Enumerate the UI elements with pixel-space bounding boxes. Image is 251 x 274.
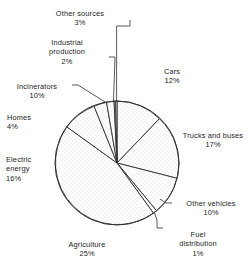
- label-fuel-distribution-name-line1: Fuel: [165, 230, 231, 239]
- label-electric-energy-name-line1: Electric: [6, 155, 54, 164]
- label-industrial-production-name-line1: Industrial: [28, 38, 106, 47]
- label-industrial-production-name-line2: production: [28, 47, 106, 56]
- label-homes: Homes 4%: [7, 113, 55, 132]
- label-other-sources: Other sources 3%: [34, 9, 126, 28]
- label-incinerators: Incinerators 10%: [4, 82, 70, 101]
- label-other-sources-name: Other sources: [34, 9, 126, 18]
- label-electric-energy: Electric energy 16%: [6, 155, 54, 183]
- label-agriculture-percent: 25%: [48, 249, 126, 258]
- label-incinerators-name: Incinerators: [4, 82, 70, 91]
- label-other-vehicles-name: Other vehicles: [175, 199, 247, 208]
- label-incinerators-percent: 10%: [4, 91, 70, 100]
- label-trucks-and-buses-name: Trucks and buses: [176, 131, 250, 140]
- pie-slices: [55, 101, 178, 225]
- label-homes-percent: 4%: [7, 122, 55, 131]
- label-agriculture: Agriculture 25%: [48, 240, 126, 259]
- label-electric-energy-name-line2: energy: [6, 164, 54, 173]
- leader-line-other-sources: [117, 20, 130, 101]
- label-cars-percent: 12%: [148, 76, 196, 85]
- label-other-vehicles-percent: 10%: [175, 208, 247, 217]
- label-other-sources-percent: 3%: [34, 18, 126, 27]
- label-homes-name: Homes: [7, 113, 55, 122]
- label-industrial-production-percent: 2%: [28, 57, 106, 66]
- label-trucks-and-buses: Trucks and buses 17%: [176, 131, 250, 150]
- label-trucks-and-buses-percent: 17%: [176, 140, 250, 149]
- label-agriculture-name: Agriculture: [48, 240, 126, 249]
- pie-chart-figure: Other sources 3% Industrial production 2…: [0, 0, 251, 274]
- label-cars-name: Cars: [148, 67, 196, 76]
- label-fuel-distribution-percent: 1%: [165, 249, 231, 258]
- leader-line-industrial-production: [109, 57, 115, 101]
- label-industrial-production: Industrial production 2%: [28, 38, 106, 66]
- leader-line-incinerators: [72, 85, 106, 103]
- label-electric-energy-percent: 16%: [6, 174, 54, 183]
- label-fuel-distribution: Fuel distribution 1%: [165, 230, 231, 258]
- label-cars: Cars 12%: [148, 67, 196, 86]
- leader-line-fuel-distribution: [154, 213, 163, 228]
- label-fuel-distribution-name-line2: distribution: [165, 239, 231, 248]
- label-other-vehicles: Other vehicles 10%: [175, 199, 247, 218]
